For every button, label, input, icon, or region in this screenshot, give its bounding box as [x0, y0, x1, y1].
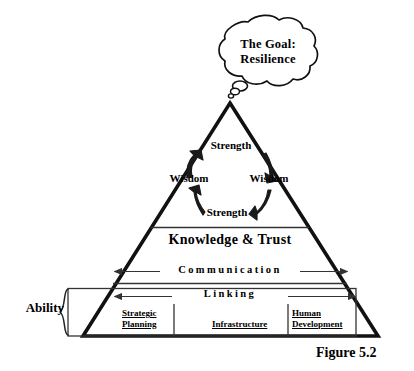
base-cell-1-line-1: Infrastructure [212, 319, 267, 329]
base-cell-human-development: Human Development [292, 308, 358, 330]
pyramid-outline [83, 103, 378, 336]
base-cell-strategic-planning: Strategic Planning [122, 308, 174, 330]
cycle-label-strength-top: Strength [196, 139, 266, 151]
base-cell-0-line-2: Planning [122, 319, 157, 329]
band-label-knowledge-trust: Knowledge & Trust [133, 232, 327, 248]
band-label-communication: Communication [155, 264, 305, 275]
goal-line-2: Resilience [233, 52, 303, 67]
cycle-label-wisdom-right: Wisdom [238, 172, 300, 184]
goal-line-1: The Goal: [233, 37, 303, 52]
figure-caption: Figure 5.2 [316, 345, 408, 361]
base-cell-0-line-1: Strategic [122, 308, 156, 318]
band-label-linking: Linking [175, 288, 285, 299]
ability-label: Ability [8, 300, 64, 316]
base-cell-infrastructure: Infrastructure [212, 319, 292, 330]
figure-container: The Goal: Resilience Strength Wisdom Wis… [0, 0, 414, 371]
goal-bubble-text: The Goal: Resilience [233, 37, 303, 67]
cycle-label-wisdom-left: Wisdom [158, 172, 220, 184]
cycle-label-strength-bottom: Strength [192, 206, 262, 218]
base-cell-2-line-1: Human [292, 308, 321, 318]
base-cell-2-line-2: Development [292, 319, 343, 329]
